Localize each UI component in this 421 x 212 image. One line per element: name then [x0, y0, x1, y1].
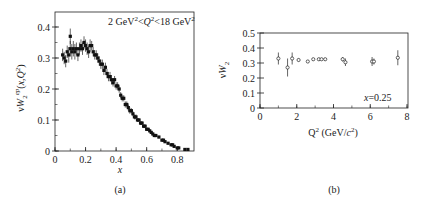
data-point: [98, 60, 101, 63]
data-point: [66, 50, 69, 53]
x-axis-label-a: x: [117, 164, 123, 175]
data-point: [127, 106, 130, 109]
data-point: [137, 118, 140, 121]
data-point: [113, 78, 116, 81]
data-point: [312, 58, 315, 61]
data-point: [105, 72, 108, 75]
data-point: [324, 58, 327, 61]
y-tick-label: 0.1: [38, 115, 51, 126]
data-point: [69, 35, 72, 38]
data-point: [85, 47, 88, 50]
data-point: [125, 103, 128, 106]
x-tick-label: 0.8: [171, 154, 184, 165]
x-tick-label: 8: [405, 111, 410, 122]
data-point: [119, 94, 122, 97]
data-point: [108, 75, 111, 78]
y-tick-label: 0.1: [243, 88, 256, 99]
data-point: [372, 60, 375, 63]
caption-a: (a): [114, 184, 125, 196]
data-point: [90, 44, 93, 47]
data-point: [69, 47, 72, 50]
data-point: [78, 47, 81, 50]
data-point: [101, 63, 104, 66]
data-point: [131, 112, 134, 115]
axis-ticks-a: 00.20.40.60.800.10.20.30.4: [38, 22, 184, 165]
data-point: [320, 58, 323, 61]
data-point: [186, 148, 189, 151]
data-point: [183, 148, 186, 151]
data-point: [63, 56, 66, 59]
data-point: [104, 66, 107, 69]
data-point: [140, 122, 143, 125]
x-axis-label-b: Q2 (GeV/c2): [308, 126, 358, 139]
annotation-a: 2 GeV2<Q2<18 GeV2: [108, 15, 195, 27]
x-tick-label: 6: [368, 111, 373, 122]
data-point: [79, 44, 82, 47]
data-point: [118, 87, 121, 90]
y-tick-label: 0.2: [243, 73, 256, 84]
data-point: [130, 109, 133, 112]
plot-frame-a: [55, 12, 194, 151]
x-tick-label: 0: [258, 111, 263, 122]
data-point: [163, 140, 166, 143]
data-points-b: [277, 50, 400, 76]
data-point: [84, 44, 87, 47]
x-tick-label: 0.2: [79, 154, 92, 165]
x-tick-label: 2: [294, 111, 299, 122]
data-point: [81, 47, 84, 50]
x-tick-label: 4: [331, 111, 336, 122]
data-point: [291, 57, 294, 60]
data-point: [96, 56, 99, 59]
data-point: [122, 97, 125, 100]
data-point: [70, 50, 73, 53]
data-point: [286, 66, 289, 69]
y-tick-label: 0: [250, 103, 255, 114]
data-point: [92, 50, 95, 53]
panel-a: 00.20.40.60.800.10.20.30.4 2 GeV2<Q2<18 …: [13, 12, 195, 196]
data-point: [144, 125, 147, 128]
data-point: [116, 84, 119, 87]
svg-text:νW2: νW2: [217, 61, 231, 78]
y-axis-label-a: νW2ep(x,Q2): [13, 64, 29, 111]
y-axis-label-b: νW2: [217, 61, 231, 78]
y-tick-label: 0.4: [243, 43, 256, 54]
data-point: [72, 47, 75, 50]
y-tick-label: 0.3: [38, 53, 51, 64]
data-point: [76, 53, 79, 56]
data-point: [306, 60, 309, 63]
y-tick-label: 0.4: [38, 22, 51, 33]
data-point: [177, 146, 180, 149]
data-point: [157, 135, 160, 138]
data-point: [341, 58, 344, 61]
data-point: [297, 58, 300, 61]
panel-b: 0246800.10.20.30.40.5 x=0.25 Q2 (GeV/c2)…: [217, 28, 410, 197]
x-tick-label: 0.6: [140, 154, 153, 165]
data-point: [95, 53, 98, 56]
y-tick-label: 0.5: [243, 28, 256, 39]
y-tick-label: 0.2: [38, 84, 51, 95]
caption-b: (b): [328, 184, 340, 196]
data-point: [64, 60, 67, 63]
figure: 00.20.40.60.800.10.20.30.4 2 GeV2<Q2<18 …: [0, 0, 421, 212]
data-point: [110, 78, 113, 81]
data-point: [173, 145, 176, 148]
y-tick-label: 0.3: [243, 58, 256, 69]
svg-text:νW2ep(x,Q2): νW2ep(x,Q2): [13, 64, 29, 111]
data-point: [166, 142, 169, 145]
data-point: [102, 69, 105, 72]
data-points-a: [61, 29, 189, 151]
data-point: [344, 61, 347, 64]
data-point: [73, 50, 76, 53]
x-tick-label: 0: [53, 154, 58, 165]
data-point: [67, 53, 70, 56]
data-point: [277, 57, 280, 60]
data-point: [87, 50, 90, 53]
data-point: [396, 56, 399, 59]
data-point: [61, 53, 64, 56]
data-point: [134, 115, 137, 118]
y-tick-label: 0: [45, 146, 50, 157]
data-point: [75, 47, 78, 50]
data-point: [82, 41, 85, 44]
data-point: [111, 81, 114, 84]
data-point: [154, 134, 157, 137]
